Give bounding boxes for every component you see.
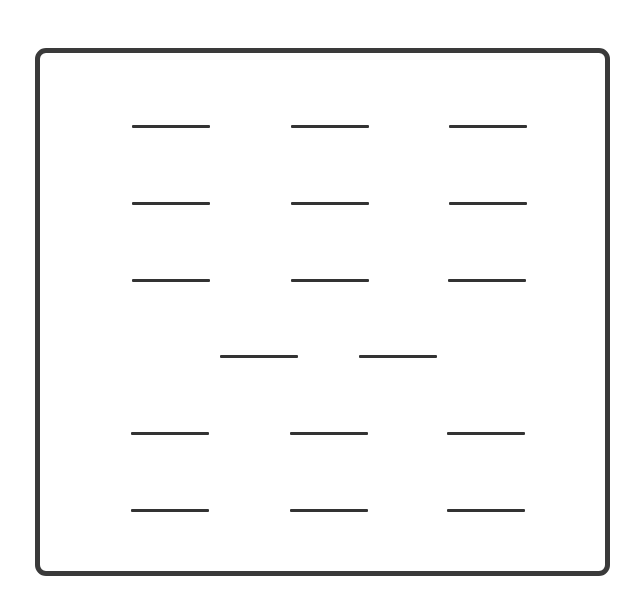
dash-line [131,509,209,512]
dash-line [290,432,368,435]
dash-line [291,202,369,205]
dash-line [132,202,210,205]
dash-line [132,125,210,128]
dash-line [291,279,369,282]
dash-line [132,279,210,282]
dash-line [220,355,298,358]
dash-line [449,202,527,205]
dash-line [447,432,525,435]
dash-line [291,125,369,128]
dash-line [449,125,527,128]
dash-line [448,279,526,282]
dash-line [131,432,209,435]
dash-line [359,355,437,358]
dash-line [290,509,368,512]
dash-line [447,509,525,512]
